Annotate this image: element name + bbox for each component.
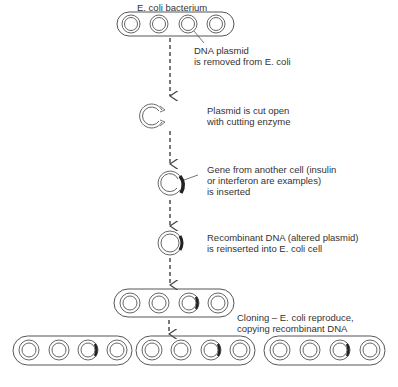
label-step3: Gene from another cell (insulin or inter… bbox=[207, 164, 336, 197]
top-bacterium bbox=[117, 12, 234, 43]
recombinant-bacterium bbox=[114, 289, 234, 317]
label-step4: Recombinant DNA (altered plasmid) is rei… bbox=[207, 232, 359, 254]
label-ecoli-bacterium: E. coli bacterium bbox=[137, 2, 207, 13]
plasmid-cut bbox=[140, 104, 165, 128]
clone-bacterium-1 bbox=[13, 336, 132, 365]
label-step2: Plasmid is cut open with cutting enzyme bbox=[207, 105, 290, 127]
label-step1: DNA plasmid is removed from E. coli bbox=[194, 45, 291, 67]
clone-bacterium-2 bbox=[136, 336, 255, 365]
recombinant-plasmid bbox=[158, 231, 182, 255]
plasmid-gene-insert bbox=[158, 171, 198, 195]
label-step5: Cloning – E. coli reproduce, copying rec… bbox=[237, 312, 354, 334]
clone-bacterium-3 bbox=[264, 336, 385, 365]
